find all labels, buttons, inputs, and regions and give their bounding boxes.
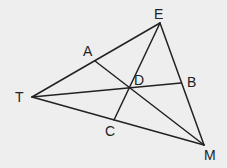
label-A: A — [83, 43, 93, 59]
segment-TB — [32, 83, 181, 97]
label-M: M — [204, 147, 216, 163]
triangle-diagram: E T M A B C D — [0, 0, 227, 168]
label-C: C — [105, 123, 115, 139]
label-B: B — [187, 74, 196, 90]
diagram-canvas: E T M A B C D — [0, 0, 227, 168]
label-T: T — [15, 89, 24, 105]
label-E: E — [154, 6, 163, 22]
label-D: D — [134, 72, 144, 88]
segment-TM — [32, 97, 204, 145]
segments-group — [32, 23, 204, 145]
